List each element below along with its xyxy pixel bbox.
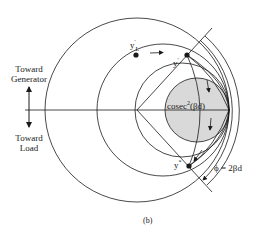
yL-label: y'L <box>130 40 139 50</box>
angle-label: ϕ = 2βd <box>214 163 242 173</box>
label-line: Generator <box>8 74 50 84</box>
y-prime-sup: ' <box>178 57 179 63</box>
figure-caption: (b) <box>143 216 152 226</box>
point-yL <box>133 52 138 57</box>
toward-generator-label: Toward Generator <box>8 64 50 84</box>
smith-chart-diagram <box>0 0 258 239</box>
label-line: Toward <box>8 133 50 143</box>
label-line: Toward <box>8 64 50 74</box>
cosec-label: cosec2(βd) <box>167 101 205 111</box>
cosec-rest: (βd) <box>190 101 205 111</box>
label-line: Load <box>8 143 50 153</box>
y-prime-label: y' <box>173 58 179 68</box>
point-y-star <box>186 163 191 168</box>
toward-load-label: Toward Load <box>8 133 50 153</box>
y-star-label: y* <box>174 160 182 170</box>
yL-sup: ' <box>135 39 136 45</box>
cosec-base: cosec <box>167 101 187 111</box>
point-y-prime <box>184 52 189 57</box>
y-star-sup: * <box>179 159 182 165</box>
yL-sub: L <box>136 46 140 52</box>
arrow-yl-to-yprime <box>150 53 163 54</box>
